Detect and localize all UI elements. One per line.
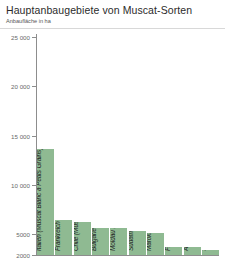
bar-label: Australien (Muscat of Alexandria) 3005 (184, 246, 189, 251)
bar-label: Marokko (Muscat of Alexandria) 5000 (147, 232, 152, 251)
y-tick-label: 5000 (16, 231, 30, 238)
plot-area: 25 00020 00015 00010 00050002000 Italien… (36, 34, 219, 256)
bar-series: Italien (Muscat Blanc à Petits Grains) 1… (37, 34, 219, 255)
bar-label: Italien (Muscat Blanc à Petits Grains) 1… (37, 148, 42, 251)
bar-label: Bulgarien (Muscat Ottonel) 5540 (geschät… (92, 227, 97, 251)
title-divider (0, 28, 225, 29)
bar[interactable]: Italien (Muscat Blanc à Petits Grains) 1… (37, 148, 54, 255)
bar[interactable]: Südafrika (Muscat of Alexandria) 5179 (129, 230, 146, 255)
bar[interactable]: Spanien (Muscat of Alexandria) 2543 (202, 249, 219, 255)
bar[interactable]: Bulgarien (Muscat Ottonel) 5540 (geschät… (92, 227, 109, 255)
bar[interactable]: Australien (Muscat of Alexandria) 3005 (184, 246, 201, 255)
bar[interactable]: Chile (Muscat of Alexandria) 6087 (74, 221, 91, 255)
bar-label: Südafrika (Muscat of Alexandria) 5179 (129, 230, 134, 251)
bar-label: Chile (Muscat of Alexandria) 6087 (74, 221, 79, 251)
x-axis (36, 255, 219, 256)
bar[interactable]: Frankreich (Muscat of Alexandria) 3007 (165, 246, 182, 255)
bar-label: Spanien (Muscat of Alexandria) 2543 (202, 249, 207, 251)
bar[interactable]: Moldau (Muscat Ottonel, Muscat jantarnij… (110, 227, 127, 255)
y-tick-label: 25 000 (11, 34, 30, 41)
y-tick-label: 2000 (16, 252, 30, 259)
bar[interactable]: Marokko (Muscat of Alexandria) 5000 (147, 232, 164, 255)
y-tick-label: 20 000 (11, 83, 30, 90)
y-tick-label: 10 000 (11, 181, 30, 188)
bar-label: Frankreich (Muscat of Alexandria) 3007 (165, 246, 170, 251)
bar-label: Frankreich (Muscat Blanc à Petits Grains… (55, 219, 60, 251)
chart-subtitle: Anbaufläche in ha (6, 18, 51, 24)
page-title: Hauptanbaugebiete von Muscat-Sorten (6, 4, 192, 16)
chart-page: Hauptanbaugebiete von Muscat-Sorten Anba… (0, 0, 225, 273)
y-tick-label: 15 000 (11, 132, 30, 139)
y-tick (32, 255, 37, 256)
bar[interactable]: Frankreich (Muscat Blanc à Petits Grains… (55, 219, 72, 255)
bar-label: Moldau (Muscat Ottonel, Muscat jantarnij… (110, 227, 115, 251)
